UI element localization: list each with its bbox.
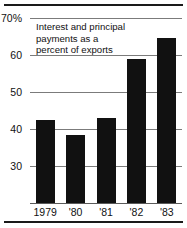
x-axis-baseline xyxy=(30,203,182,204)
x-tick-label-81: '81 xyxy=(91,206,121,218)
chart-annotation-text: Interest and principalpayments as aperce… xyxy=(36,21,156,56)
x-tick-label-80: '80 xyxy=(60,206,90,218)
bar-1979 xyxy=(36,120,55,203)
figure-top-rule xyxy=(4,4,183,6)
bar-80 xyxy=(66,135,85,203)
bar-81 xyxy=(97,118,116,203)
annotation-line-1: Interest and principal xyxy=(36,21,156,33)
bar-83 xyxy=(157,38,176,203)
y-tick-label-50: 50 xyxy=(0,87,22,97)
y-tick-label-60: 60 xyxy=(0,50,22,60)
bar-chart-figure: 70%60504030 1979'80'81'82'83 Interest an… xyxy=(0,0,187,228)
bar-82 xyxy=(127,59,146,203)
annotation-line-3: percent of exports xyxy=(36,44,156,56)
y-tick-label-40: 40 xyxy=(0,124,22,134)
annotation-line-2: payments as a xyxy=(36,33,156,45)
gridline-70 xyxy=(30,18,182,19)
x-tick-label-1979: 1979 xyxy=(30,206,60,218)
y-tick-label-70: 70% xyxy=(0,13,22,23)
x-tick-label-83: '83 xyxy=(152,206,182,218)
x-tick-label-82: '82 xyxy=(121,206,151,218)
y-tick-label-30: 30 xyxy=(0,161,22,171)
figure-bottom-rule xyxy=(4,221,183,223)
